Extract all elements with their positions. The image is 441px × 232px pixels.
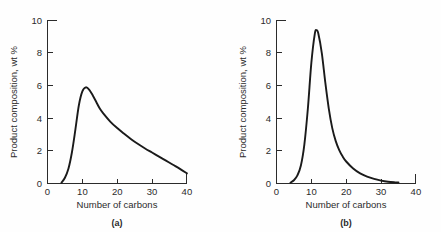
chart-b-y-tick-labels: 0 2 4 6 8 10 [260,15,271,189]
chart-b-svg: 0 2 4 6 8 10 0 10 20 30 40 [220,0,441,232]
chart-a-curve [61,87,186,182]
chart-a-ytick-label-10: 10 [31,15,42,26]
chart-a-y-tick-labels: 0 2 4 6 8 10 [31,15,42,189]
chart-b-ytick-label-10: 10 [260,15,271,26]
chart-panel-b: 0 2 4 6 8 10 0 10 20 30 40 [220,0,440,232]
chart-b-ytick-label-0: 0 [266,178,271,189]
chart-b-xtick-label-30: 30 [376,186,387,197]
chart-a-xtick-label-40: 40 [182,186,193,197]
chart-b-x-tick-labels: 0 10 20 30 40 [274,186,421,197]
chart-b-axes [277,20,417,184]
chart-a-ytick-label-8: 8 [37,47,42,58]
chart-b-ytick-label-8: 8 [266,47,271,58]
chart-a-x-ticks [48,179,187,184]
chart-b-curve [290,30,398,183]
chart-a-caption: (a) [112,218,123,228]
chart-a-y-ticks [48,21,53,184]
chart-a-ytick-label-0: 0 [37,178,42,189]
chart-a-xlabel: Number of carbons [77,199,158,210]
chart-b-xtick-label-20: 20 [341,186,352,197]
chart-b-xtick-label-40: 40 [411,186,422,197]
chart-b-xtick-label-0: 0 [274,186,279,197]
chart-a-xtick-label-30: 30 [147,186,158,197]
chart-b-ytick-label-6: 6 [266,80,271,91]
chart-a-ytick-label-2: 2 [37,145,42,156]
chart-a-xtick-label-0: 0 [45,186,50,197]
chart-a-xtick-label-10: 10 [77,186,88,197]
chart-a-ytick-label-6: 6 [37,80,42,91]
chart-a-ytick-label-4: 4 [37,113,42,124]
chart-a-x-tick-labels: 0 10 20 30 40 [45,186,192,197]
chart-a-xtick-label-20: 20 [112,186,123,197]
chart-a-axes [48,20,188,184]
chart-b-y-ticks [277,21,282,184]
chart-b-caption: (b) [340,218,352,228]
chart-a-ylabel: Product composition, wt % [8,45,19,157]
chart-b-ytick-label-4: 4 [266,113,271,124]
chart-b-ytick-label-2: 2 [266,145,271,156]
chart-panel-a: 0 2 4 6 8 10 0 10 20 30 40 [0,0,220,232]
figure-container: 0 2 4 6 8 10 0 10 20 30 40 [0,0,441,232]
chart-b-xtick-label-10: 10 [306,186,317,197]
chart-b-xlabel: Number of carbons [306,199,387,210]
chart-a-svg: 0 2 4 6 8 10 0 10 20 30 40 [0,0,220,232]
chart-b-ylabel: Product composition, wt % [237,45,248,157]
